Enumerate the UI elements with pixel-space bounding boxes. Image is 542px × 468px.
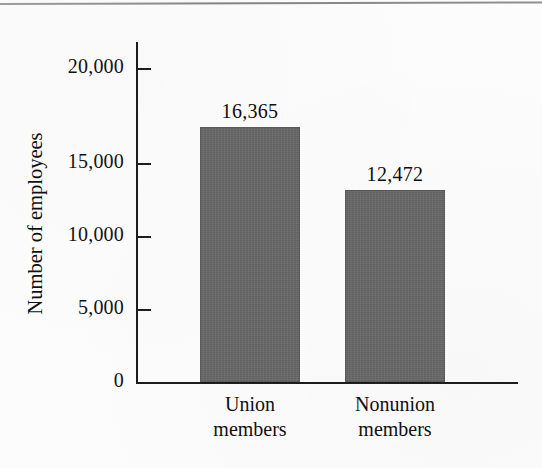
- bar-union-members: [200, 127, 300, 382]
- y-tick-10000: [138, 236, 151, 238]
- bar-value-union-members: 16,365: [200, 100, 300, 123]
- y-tick-label-20000: 20,000: [68, 55, 124, 78]
- bar-value-nonunion-members: 12,472: [345, 163, 445, 186]
- y-tick-20000: [138, 68, 151, 70]
- x-axis-line: [136, 382, 518, 384]
- x-category-line-2-union: members: [190, 417, 310, 442]
- y-tick-5000: [138, 309, 151, 311]
- y-tick-label-0: 0: [114, 369, 124, 392]
- x-category-label-nonunion-members: Nonunion members: [330, 392, 460, 442]
- bar-chart: Number of employees 20,000 15,000 10,000…: [0, 0, 542, 468]
- bar-nonunion-members: [345, 190, 445, 382]
- y-tick-label-5000: 5,000: [78, 296, 124, 319]
- y-tick-label-15000: 15,000: [68, 150, 124, 173]
- y-tick-label-10000: 10,000: [68, 223, 124, 246]
- x-category-line-2-nonunion: members: [330, 417, 460, 442]
- figure-page: Number of employees 20,000 15,000 10,000…: [0, 0, 542, 468]
- x-category-line-1-union: Union: [190, 392, 310, 417]
- x-category-line-1-nonunion: Nonunion: [330, 392, 460, 417]
- y-axis-line: [136, 42, 138, 384]
- x-category-label-union-members: Union members: [190, 392, 310, 442]
- y-tick-15000: [138, 163, 151, 165]
- y-axis-title: Number of employees: [24, 104, 47, 344]
